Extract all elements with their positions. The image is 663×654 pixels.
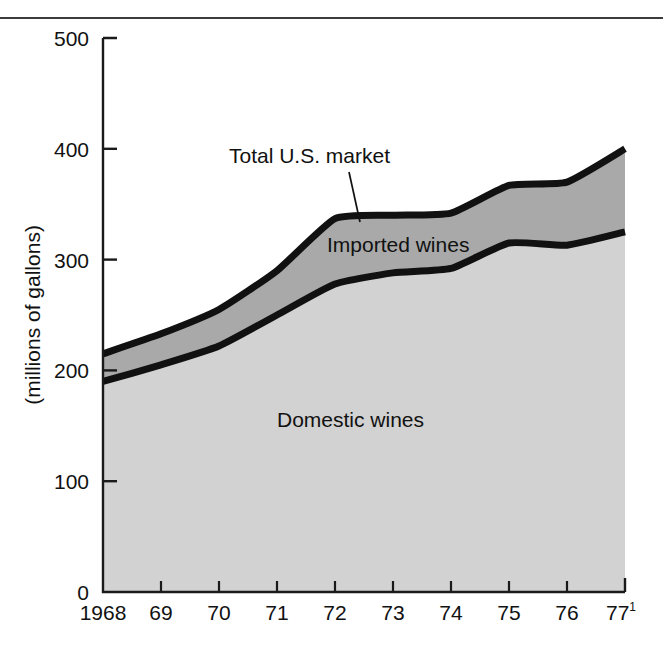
y-tick-label: 100 [54, 470, 89, 493]
x-tick-label: 76 [555, 601, 578, 624]
y-tick-label: 200 [54, 359, 89, 382]
y-tick-label: 500 [54, 27, 89, 50]
annotation-imported-wines: Imported wines [327, 233, 469, 256]
x-tick-label: 72 [323, 601, 346, 624]
y-tick-labels: 0100200300400500 [54, 27, 89, 604]
y-axis-label: (millions of gallons) [21, 225, 44, 405]
x-tick-label: 771 [606, 600, 636, 624]
x-tick-label: 73 [381, 601, 404, 624]
x-tick-label: 70 [207, 601, 230, 624]
annotation-domestic-wines: Domestic wines [277, 408, 424, 431]
x-tick-footnote-marker: 1 [629, 600, 636, 614]
x-tick-label: 75 [497, 601, 520, 624]
annotation-total-us-market: Total U.S. market [229, 144, 390, 167]
x-tick-label: 74 [439, 601, 463, 624]
area-chart-svg: 0100200300400500 19686970717273747576771… [0, 0, 663, 654]
x-tick-label: 69 [149, 601, 172, 624]
chart-figure: wine consumption 0100200300400500 196869… [0, 0, 663, 654]
x-tick-label: 71 [265, 601, 288, 624]
x-tick-label: 1968 [80, 601, 127, 624]
y-tick-label: 300 [54, 249, 89, 272]
y-tick-label: 400 [54, 138, 89, 161]
x-tick-labels: 19686970717273747576771 [80, 600, 637, 624]
